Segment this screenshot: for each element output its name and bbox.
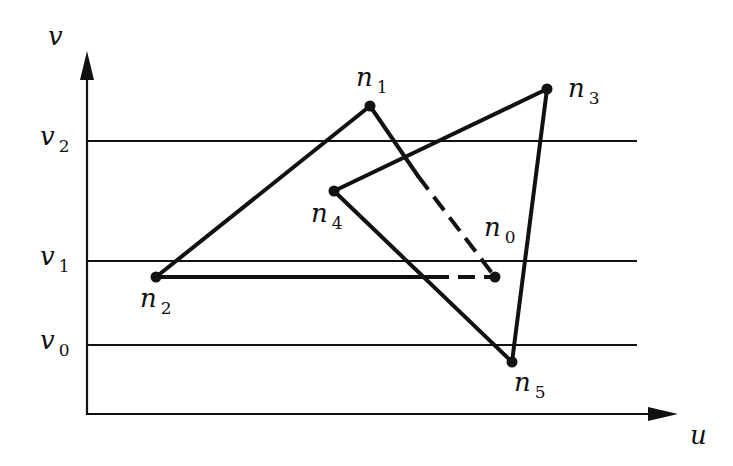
edge-n3-n5 bbox=[512, 89, 547, 362]
v-axis-arrowhead-icon bbox=[80, 51, 94, 80]
node-label-n2: n2 bbox=[140, 283, 172, 318]
node-n3-dot bbox=[542, 84, 553, 95]
node-label-n1: n1 bbox=[356, 62, 388, 97]
polygon-scanline-diagram: v u v2v1v0 n1n2n3n4n0n5 bbox=[0, 0, 733, 466]
scanline-label-v2: v2 bbox=[40, 121, 70, 156]
scanlines: v2v1v0 bbox=[40, 121, 637, 360]
node-n5-dot bbox=[507, 357, 518, 368]
scanline-label-v1: v1 bbox=[40, 241, 70, 276]
u-axis-label: u bbox=[690, 420, 707, 450]
scanline-label-v0: v0 bbox=[40, 325, 70, 360]
axes bbox=[86, 78, 652, 415]
node-n4-dot bbox=[329, 186, 340, 197]
u-axis-arrowhead-icon bbox=[648, 407, 678, 421]
node-n2-dot bbox=[151, 272, 162, 283]
node-label-n4: n4 bbox=[311, 198, 343, 233]
v-axis-label: v bbox=[48, 21, 63, 51]
node-n1-dot bbox=[365, 101, 376, 112]
node-label-n3: n3 bbox=[568, 73, 600, 108]
node-label-n5: n5 bbox=[514, 367, 546, 402]
node-n0-dot bbox=[490, 272, 501, 283]
node-label-n0: n0 bbox=[484, 212, 516, 247]
